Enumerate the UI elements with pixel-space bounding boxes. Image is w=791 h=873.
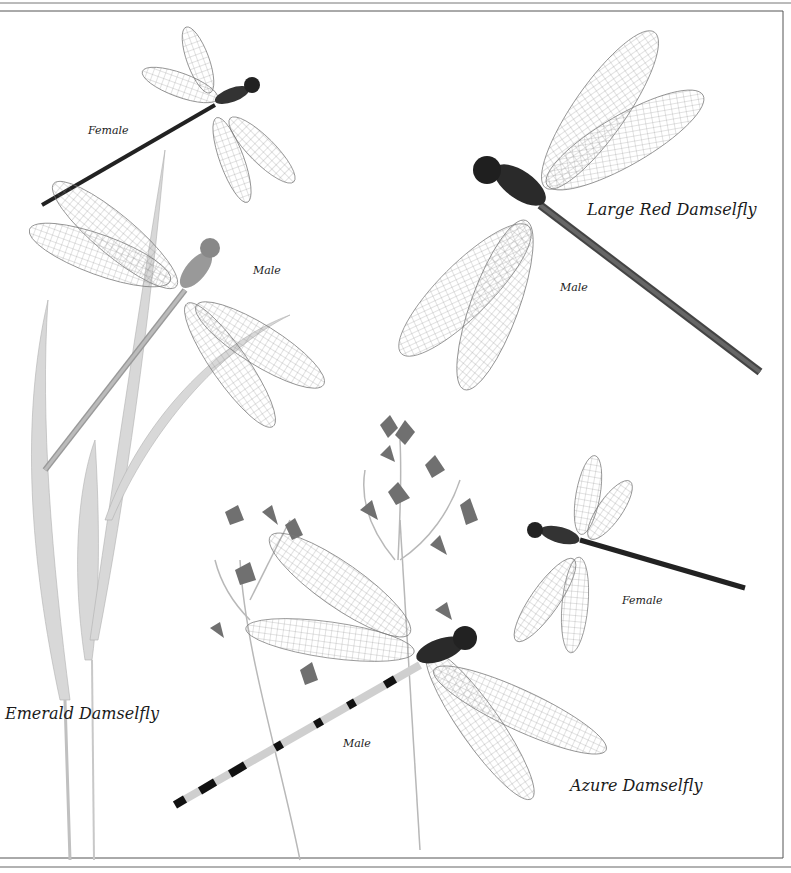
large-red-male-label: Male (560, 281, 588, 294)
emerald-damselfly-title: Emerald Damselfly (5, 704, 159, 723)
azure-female-label: Female (622, 594, 663, 607)
azure-damselfly-title: Azure Damselfly (570, 776, 703, 795)
emerald-female-label: Female (88, 124, 129, 137)
emerald-damselfly-female-illustration (42, 23, 303, 206)
azure-male-label: Male (343, 737, 371, 750)
azure-damselfly-female-illustration (505, 454, 745, 654)
damselfly-plate: Female Male Emerald Damselfly Large Red … (0, 0, 791, 873)
emerald-male-label: Male (253, 264, 281, 277)
large-red-damselfly-title: Large Red Damselfly (587, 200, 757, 219)
azure-damselfly-male-illustration (175, 518, 615, 810)
emerald-damselfly-male-illustration (23, 168, 335, 470)
